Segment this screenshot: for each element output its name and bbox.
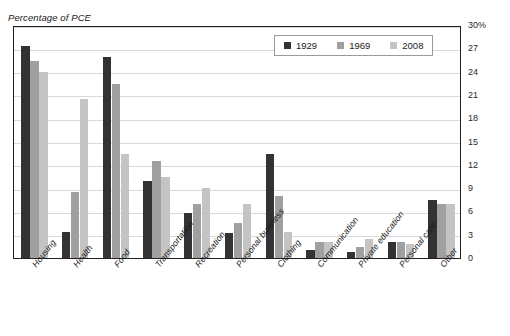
y-tick-label: 27	[468, 44, 478, 53]
bar	[388, 242, 396, 258]
legend-label: 1929	[296, 40, 317, 51]
y-tick-label: 3	[468, 231, 473, 240]
chart-legend: 192919692008	[274, 35, 433, 56]
bar	[39, 72, 47, 258]
legend-entry: 1929	[284, 40, 317, 51]
legend-label: 1969	[349, 40, 370, 51]
bar	[275, 196, 283, 258]
legend-label: 2008	[402, 40, 423, 51]
legend-swatch-icon	[337, 42, 344, 49]
y-tick-label: 6	[468, 207, 473, 216]
bar	[30, 61, 38, 258]
legend-entry: 1969	[337, 40, 370, 51]
bar-group	[21, 27, 47, 258]
bar	[437, 204, 445, 258]
bar-group	[306, 27, 332, 258]
bar	[71, 192, 79, 258]
bar	[193, 204, 201, 258]
legend-entry: 2008	[390, 40, 423, 51]
y-tick-label: 30%	[468, 21, 486, 30]
bar	[103, 57, 111, 258]
y-tick-label: 0	[468, 254, 473, 263]
y-tick-label: 18	[468, 114, 478, 123]
legend-swatch-icon	[284, 42, 291, 49]
y-tick-label: 21	[468, 91, 478, 100]
y-axis-title: Percentage of PCE	[8, 12, 91, 23]
bar	[62, 232, 70, 258]
bar	[80, 99, 88, 258]
bar-group	[62, 27, 88, 258]
bar	[21, 46, 29, 258]
bar-group	[103, 27, 129, 258]
legend-swatch-icon	[390, 42, 397, 49]
pce-bar-chart: Percentage of PCE 036912151821242730% Ho…	[0, 0, 510, 336]
bar-group	[225, 27, 251, 258]
bar	[306, 250, 314, 258]
y-tick-label: 24	[468, 68, 478, 77]
bar	[112, 84, 120, 258]
bar	[152, 161, 160, 258]
bar	[347, 252, 355, 258]
bar	[121, 154, 129, 258]
bar-group	[143, 27, 169, 258]
y-tick-label: 9	[468, 184, 473, 193]
y-tick-label: 12	[468, 161, 478, 170]
bar	[143, 181, 151, 258]
y-tick-label: 15	[468, 138, 478, 147]
bar	[266, 154, 274, 258]
